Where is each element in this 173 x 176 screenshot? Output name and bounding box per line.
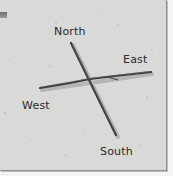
label-west: West	[22, 99, 50, 112]
stick-north-south	[71, 43, 116, 135]
stick-ns-highlight	[72, 44, 116, 134]
label-south: South	[100, 145, 133, 158]
paper-background: North East West South	[0, 0, 167, 171]
stick-west-east	[40, 72, 151, 88]
stick-we-shadow	[42, 74, 152, 90]
label-north: North	[54, 25, 86, 38]
label-east: East	[123, 53, 148, 66]
